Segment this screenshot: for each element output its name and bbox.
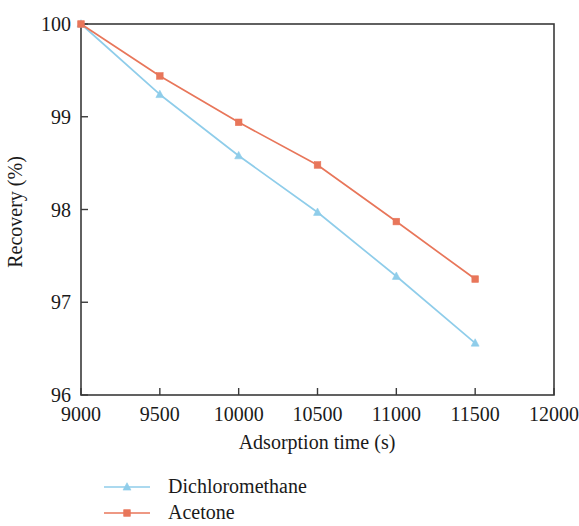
chart-figure: 96979899100 9000950010000105001100011500…	[0, 0, 579, 526]
legend-label: Dichloromethane	[168, 475, 307, 497]
x-tick-label: 12000	[529, 403, 579, 425]
x-tick-label: 9000	[61, 403, 101, 425]
chart-legend: DichloromethaneAcetone	[104, 475, 307, 523]
legend-item-1[interactable]: Acetone	[104, 501, 235, 523]
x-axis: 900095001000010500110001150012000	[61, 388, 579, 425]
x-axis-title: Adsorption time (s)	[239, 431, 396, 454]
line-chart: 96979899100 9000950010000105001100011500…	[0, 0, 579, 526]
x-tick-label: 9500	[140, 403, 180, 425]
y-tick-label: 100	[41, 13, 71, 35]
series-0-marker	[314, 208, 322, 215]
x-tick-label: 11000	[372, 403, 421, 425]
series-dichloromethane	[77, 20, 479, 346]
x-tick-label: 10000	[214, 403, 264, 425]
series-1-marker	[235, 119, 242, 126]
legend-label: Acetone	[168, 501, 235, 523]
y-tick-label: 99	[51, 106, 71, 128]
x-tick-label: 10500	[293, 403, 343, 425]
series-1-marker	[78, 21, 85, 28]
x-tick-label: 11500	[451, 403, 500, 425]
y-tick-label: 97	[51, 291, 71, 313]
legend-item-0[interactable]: Dichloromethane	[104, 475, 307, 497]
series-line-1	[81, 24, 475, 279]
data-series-group	[77, 20, 479, 346]
series-acetone	[78, 21, 479, 283]
series-line-0	[81, 24, 475, 343]
series-1-marker	[157, 73, 164, 80]
legend-marker	[124, 510, 131, 517]
series-1-marker	[472, 276, 479, 283]
y-tick-label: 98	[51, 199, 71, 221]
series-1-marker	[314, 162, 321, 169]
series-1-marker	[393, 218, 400, 225]
y-axis-title: Recovery (%)	[4, 156, 27, 268]
